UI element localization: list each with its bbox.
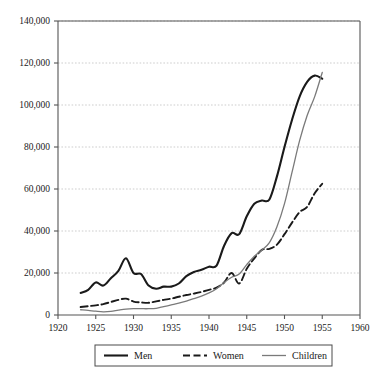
chart-legend: MenWomenChildren <box>95 345 332 366</box>
x-tick-label: 1960 <box>351 323 370 333</box>
line-chart: 020,00040,00060,00080,000100,000120,0001… <box>0 0 381 376</box>
x-tick-label: 1920 <box>49 323 68 333</box>
y-tick-label: 100,000 <box>19 100 50 110</box>
x-tick-label: 1930 <box>124 323 143 333</box>
legend-label-women[interactable]: Women <box>213 350 244 361</box>
legend-label-men[interactable]: Men <box>134 350 152 361</box>
x-tick-label: 1945 <box>237 323 256 333</box>
x-tick-label: 1935 <box>162 323 181 333</box>
y-tick-label: 60,000 <box>24 184 50 194</box>
y-tick-label: 20,000 <box>24 268 50 278</box>
chart-figure: 020,00040,00060,00080,000100,000120,0001… <box>0 0 381 376</box>
x-tick-label: 1940 <box>200 323 219 333</box>
y-tick-label: 140,000 <box>19 16 50 26</box>
y-tick-label: 0 <box>45 310 50 320</box>
y-tick-label: 120,000 <box>19 58 50 68</box>
chart-background <box>0 0 381 376</box>
x-tick-label: 1950 <box>275 323 294 333</box>
legend-label-children[interactable]: Children <box>292 350 327 361</box>
y-tick-label: 40,000 <box>24 226 50 236</box>
x-tick-label: 1955 <box>313 323 332 333</box>
y-tick-label: 80,000 <box>24 142 50 152</box>
x-tick-label: 1925 <box>86 323 105 333</box>
